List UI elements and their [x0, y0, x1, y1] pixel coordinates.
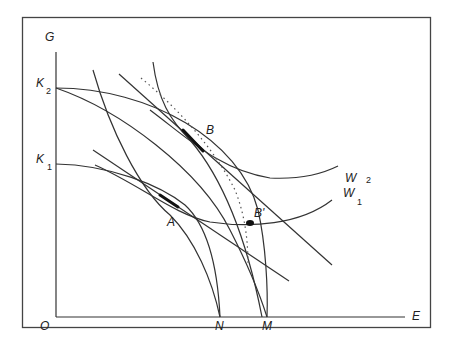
y-point-k1-main: K [36, 152, 45, 166]
tangency-segment-b [183, 130, 203, 151]
curve-top-to-m [153, 62, 262, 317]
curve-label-w1-main: W [343, 186, 356, 200]
point-label-b-prime: B' [254, 206, 265, 220]
axis-label-e: E [412, 309, 421, 323]
curve-label-w2-main: W [345, 171, 358, 185]
point-b-prime-marker [246, 220, 254, 226]
curve-k2-to-m [56, 88, 267, 317]
price-line-b [119, 74, 332, 265]
curve-label-w1-sub: 1 [357, 197, 362, 207]
axis-label-g: G [45, 30, 54, 44]
dotted-locus [141, 78, 248, 265]
ppf-outer-k2-m [56, 88, 267, 317]
x-point-m: M [262, 319, 272, 333]
point-label-a: A [166, 215, 175, 229]
y-point-k1-sub: 1 [47, 162, 52, 172]
curve-label-w2-sub: 2 [366, 175, 371, 185]
economics-diagram: G E O K 2 K 1 N M W 2 W 1 B A B' [0, 0, 453, 352]
y-point-k2-sub: 2 [46, 86, 51, 96]
ppf-inner-k1-n [56, 164, 220, 317]
x-point-n: N [215, 319, 224, 333]
indifference-curve-w2 [150, 110, 338, 178]
origin-label-o: O [40, 319, 49, 333]
point-label-b: B [206, 123, 214, 137]
y-point-k2-main: K [36, 76, 45, 90]
diagram-frame [23, 18, 431, 328]
